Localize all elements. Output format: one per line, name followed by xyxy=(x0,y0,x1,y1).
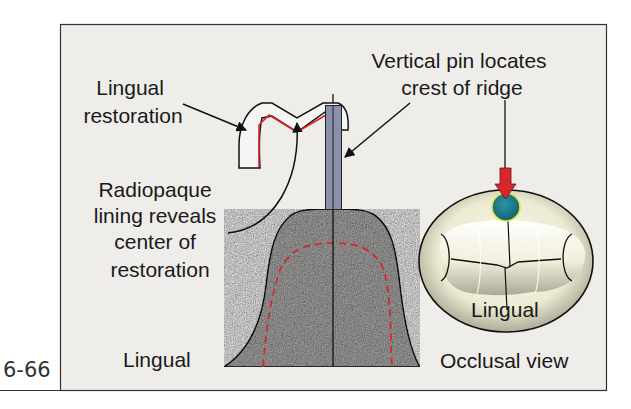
label-lingual-bottom: Lingual xyxy=(123,348,191,371)
label-occlusal-view: Occlusal view xyxy=(440,349,569,372)
label-lingual-occlusal: Lingual xyxy=(471,298,539,321)
vertical-pin xyxy=(326,106,342,210)
figure-number: 6-66 xyxy=(3,358,51,382)
dental-diagram: 6-66 Lingual restoration xyxy=(0,0,631,409)
